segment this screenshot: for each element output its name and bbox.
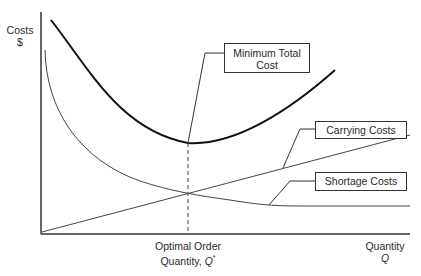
optimal-quantity-label: Optimal Order Quantity, Q* — [148, 240, 228, 267]
shortage-leader — [269, 181, 315, 205]
optimal-label-line1: Optimal Order — [148, 240, 228, 252]
min-total-line1: Minimum Total — [225, 47, 309, 59]
y-axis-label: Costs $ — [2, 24, 38, 48]
optimal-label-line2: Quantity, Q* — [148, 252, 228, 267]
carrying-costs-label: Carrying Costs — [326, 124, 395, 136]
x-axis-label-line2: Q — [355, 252, 415, 264]
y-axis-label-line1: Costs — [2, 24, 38, 36]
q-star-symbol: Q — [205, 255, 213, 267]
shortage-costs-annotation: Shortage Costs — [315, 172, 407, 191]
x-axis-label-line1: Quantity — [355, 240, 415, 252]
min-total-cost-annotation: Minimum Total Cost — [224, 43, 310, 73]
x-axis-label: Quantity Q — [355, 240, 415, 264]
optimal-label-prefix: Quantity, — [160, 255, 204, 267]
y-axis-label-line2: $ — [2, 36, 38, 48]
q-star-superscript: * — [213, 254, 216, 261]
shortage-costs-label: Shortage Costs — [325, 175, 397, 187]
min-total-line2: Cost — [225, 59, 309, 71]
total-cost-curve — [51, 20, 335, 143]
min-total-leader — [188, 53, 224, 143]
carrying-leader — [283, 129, 315, 168]
carrying-costs-annotation: Carrying Costs — [315, 121, 407, 139]
